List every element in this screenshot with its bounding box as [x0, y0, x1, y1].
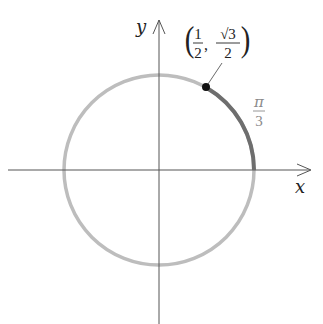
x-denominator: 2: [194, 45, 202, 61]
arc-0-to-pi-over-3: [207, 88, 255, 170]
leader-line: [208, 63, 222, 84]
angle-numerator: π: [253, 93, 265, 111]
y-numerator: √3: [220, 26, 236, 42]
x-numerator: 1: [194, 26, 202, 42]
label-open-paren: (: [185, 19, 195, 59]
y-axis-label: y: [135, 16, 147, 37]
label-close-paren: ): [241, 19, 251, 59]
point-marker: [202, 83, 210, 91]
comma: ,: [204, 36, 208, 53]
angle-denominator: 3: [255, 113, 263, 129]
y-denominator: 2: [224, 45, 232, 61]
x-axis-label: x: [295, 176, 305, 197]
unit-circle-diagram: y x ( 1 2 , √3 2 ) π 3: [0, 0, 323, 324]
angle-label: π 3: [253, 93, 265, 129]
point-coordinate-label: ( 1 2 , √3 2 ): [185, 19, 251, 61]
